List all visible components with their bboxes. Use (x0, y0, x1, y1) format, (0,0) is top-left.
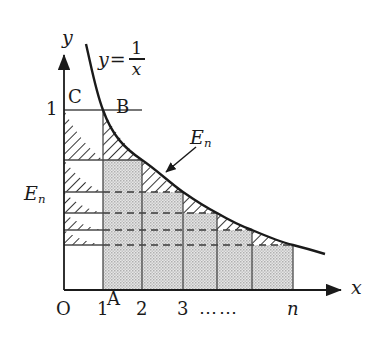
point-label-b: B (116, 98, 129, 116)
stacked-error-triangles (64, 110, 103, 245)
y-tick-label-1: 1 (46, 100, 57, 118)
riemann-rectangles (103, 160, 293, 290)
x-tick-label-2: 2 (136, 300, 147, 318)
error-label-left: En (24, 184, 45, 206)
fraction-numerator: 1 (129, 40, 144, 58)
stack-triangle-1 (64, 110, 103, 160)
equation-lhs: y (98, 48, 109, 70)
curve-equation-label: y = 1 x (98, 40, 145, 78)
point-label-a: A (107, 290, 120, 308)
equation-fraction: 1 x (129, 40, 145, 78)
origin-label: O (56, 300, 71, 318)
x-tick-label-3: 3 (177, 300, 188, 318)
en-leader-arrow (166, 147, 196, 172)
error-label-right-subscript: n (204, 136, 212, 150)
x-axis-label: x (351, 278, 362, 297)
point-label-c: C (68, 88, 82, 106)
equation-equals-sign: = (110, 48, 126, 70)
error-label-left-base: E (24, 182, 38, 204)
stack-triangle-5 (64, 230, 103, 245)
y-axis-label: y (62, 28, 73, 47)
figure-canvas: y x 1 O 1 2 3 ⋯⋯ n A B C y = 1 x En En (0, 0, 386, 356)
fraction-denominator: x (130, 60, 144, 78)
stack-triangle-2 (64, 160, 103, 192)
stack-triangle-3 (64, 192, 103, 213)
hatch-region-1 (103, 110, 142, 160)
error-label-right-base: E (190, 126, 204, 148)
stack-triangle-4 (64, 213, 103, 230)
error-label-left-subscript: n (38, 192, 46, 206)
x-tick-label-n: n (287, 300, 299, 318)
x-axis-ellipsis: ⋯⋯ (199, 303, 238, 321)
error-label-right: En (190, 128, 211, 150)
